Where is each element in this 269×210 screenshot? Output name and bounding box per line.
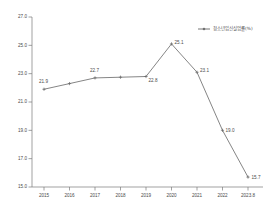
x-tick-label: 2022 [217, 193, 228, 198]
legend-dot-marker [203, 28, 205, 30]
y-axis-ticks: 15.017.019.021.023.025.027.0 [18, 14, 32, 189]
y-axis: 15.017.019.021.023.025.027.0 [18, 14, 32, 189]
x-tick-label: 2015 [39, 193, 50, 198]
y-tick-label: 15.0 [18, 184, 27, 189]
x-tick-label: 2019 [141, 193, 152, 198]
x-tick-label: 2016 [64, 193, 75, 198]
y-tick-label: 25.0 [18, 43, 27, 48]
data-point-label: 23.1 [200, 68, 209, 73]
data-point-label: 25.1 [175, 40, 184, 45]
y-tick-label: 19.0 [18, 128, 27, 133]
line-chart: 15.017.019.021.023.025.027.0 20152016201… [0, 0, 269, 210]
y-tick-label: 17.0 [18, 156, 27, 161]
x-tick-label: 2018 [115, 193, 126, 198]
data-series-group: 21.922.722.825.123.119.015.7 [39, 40, 261, 181]
y-tick-label: 23.0 [18, 71, 27, 76]
data-point-label: 21.9 [39, 79, 48, 84]
data-point-label: 19.0 [226, 128, 235, 133]
y-tick-label: 27.0 [18, 14, 27, 19]
series-point-labels: 21.922.722.825.123.119.015.7 [39, 40, 261, 181]
legend-entry-label: 청소년임신실업률(%) [213, 25, 253, 32]
chart-canvas: 15.017.019.021.023.025.027.0 20152016201… [0, 0, 269, 210]
data-point-label: 22.8 [149, 78, 158, 83]
x-axis: 201520162017201820192020202120222023.8 [32, 187, 263, 198]
series-markers [42, 42, 249, 178]
x-axis-ticks: 201520162017201820192020202120222023.8 [39, 187, 256, 198]
data-point-label: 15.7 [252, 175, 261, 180]
x-tick-label: 2020 [166, 193, 177, 198]
x-tick-label: 2021 [192, 193, 203, 198]
x-tick-label: 2023.8 [241, 193, 255, 198]
x-tick-label: 2017 [90, 193, 101, 198]
data-point-label: 22.7 [90, 68, 99, 73]
y-tick-label: 21.0 [18, 99, 27, 104]
series-line-path [44, 44, 248, 177]
chart-legend: 청소년임신실업률(%) [198, 25, 253, 32]
